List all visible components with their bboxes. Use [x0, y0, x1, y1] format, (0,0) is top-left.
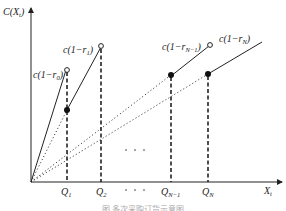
hollow-point-r1 [99, 44, 104, 49]
tick-label-qn: QN [202, 187, 214, 199]
price-label-rn: c(1−rN) [219, 34, 250, 46]
figure-caption: 图 多次采购订货示意图 [0, 203, 286, 211]
price-label-r0: c(1−r0) [33, 70, 63, 82]
tick-label-q2: Q2 [96, 187, 106, 199]
tick-label-qn-1: QN−1 [161, 187, 180, 199]
dotted-ray-q1 [31, 110, 67, 182]
tick-label-q1: Q1 [61, 187, 71, 199]
y-axis-label: C(Xt) [3, 7, 24, 19]
middle-ellipsis [125, 149, 145, 151]
hollow-point-r0 [65, 68, 70, 73]
filled-point-qn-1 [168, 72, 174, 78]
filled-point-q1 [64, 107, 70, 113]
price-label-rn-1: c(1−rN−1) [162, 42, 201, 54]
cost-function-diagram [0, 0, 286, 211]
segment-0 [31, 70, 66, 182]
price-label-r1: c(1−r1) [63, 45, 93, 57]
x-axis-label: Xt [264, 186, 272, 198]
segment-n [208, 42, 262, 74]
hollow-point-rn-1 [208, 43, 213, 48]
filled-point-qn [205, 71, 211, 77]
axis-ellipsis [125, 189, 145, 191]
